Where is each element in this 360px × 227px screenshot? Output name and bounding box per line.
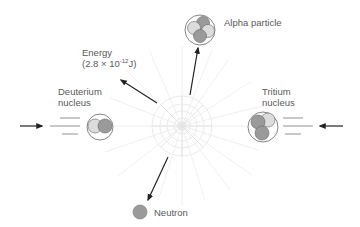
fusion-diagram	[0, 0, 360, 227]
neutron-icon	[133, 205, 147, 219]
fusion-burst-icon	[102, 46, 262, 206]
tritium-label-line2: nucleus	[262, 97, 295, 108]
deuterium-label: Deuterium nucleus	[58, 86, 102, 108]
tritium-label-line1: Tritium	[262, 86, 295, 97]
deuterium-nucleus-icon	[87, 114, 113, 140]
energy-label-line1: Energy	[82, 47, 136, 58]
energy-label: Energy (2.8 × 10-12J)	[82, 47, 136, 69]
energy-unit: J)	[128, 58, 136, 69]
neutron-label: Neutron	[154, 207, 188, 218]
tritium-label: Tritium nucleus	[262, 86, 295, 108]
deuterium-motion-lines	[50, 118, 80, 134]
alpha-particle-icon	[185, 15, 215, 45]
energy-label-line2: (2.8 × 10-12J)	[82, 58, 136, 69]
tritium-nucleus-icon	[248, 112, 278, 142]
deuterium-label-line2: nucleus	[58, 97, 102, 108]
tritium-motion-lines	[283, 118, 313, 134]
alpha-particle-label: Alpha particle	[224, 17, 282, 28]
deuterium-label-line1: Deuterium	[58, 86, 102, 97]
energy-value: (2.8 × 10	[82, 58, 120, 69]
